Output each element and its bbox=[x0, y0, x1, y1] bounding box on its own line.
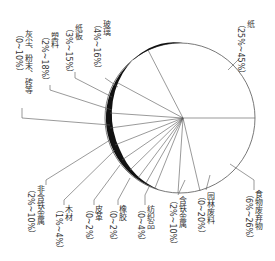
label-cardboard-name: 纸板 bbox=[73, 24, 82, 77]
label-nonferrous: 非含铁金属 （2%~10%） bbox=[26, 185, 44, 238]
label-garden-range: （0~20%） bbox=[196, 192, 205, 238]
label-glass-range: （4%~16%） bbox=[92, 20, 101, 73]
label-rubber: 橡胶 （0~2%） bbox=[108, 205, 126, 245]
label-textile: 纺织品 （0~4%） bbox=[136, 205, 154, 245]
label-textile-name: 纺织品 bbox=[145, 205, 154, 245]
label-cardboard: 纸板 （3%~15%） bbox=[64, 24, 82, 77]
label-ferrous-range: （2%~10%） bbox=[168, 196, 177, 249]
label-garden-name: 园林废料 bbox=[205, 192, 214, 238]
label-plastic-range: （2%~18%） bbox=[40, 32, 49, 85]
label-cardboard-range: （3%~15%） bbox=[64, 24, 73, 77]
label-wood-name: 木材 bbox=[63, 205, 72, 253]
label-ferrous: 含铁金属 （2%~10%） bbox=[168, 196, 186, 249]
label-leather-name: 皮革 bbox=[93, 205, 102, 245]
label-food-name: 食物废弃物 bbox=[253, 190, 262, 243]
label-nonferrous-name: 非含铁金属 bbox=[35, 185, 44, 238]
label-food: 食物废弃物 （6%~26%） bbox=[244, 190, 262, 243]
label-dust-range: （0~10%） bbox=[14, 30, 23, 94]
label-wood: 木材 （1%~4%） bbox=[54, 205, 72, 253]
label-dust: 灰尘、粉末、砖等 （0~10%） bbox=[14, 30, 32, 94]
label-textile-range: （0~4%） bbox=[136, 205, 145, 245]
label-garden: 园林废料 （0~20%） bbox=[196, 192, 214, 238]
label-paper-name: 纸 bbox=[245, 20, 254, 78]
label-ferrous-name: 含铁金属 bbox=[177, 196, 186, 249]
label-rubber-range: （0~2%） bbox=[108, 205, 117, 245]
label-food-range: （6%~26%） bbox=[244, 190, 253, 243]
label-plastic-name: 塑料 bbox=[49, 32, 58, 85]
label-leather: 皮革 （0~2%） bbox=[84, 205, 102, 245]
label-plastic: 塑料 （2%~18%） bbox=[40, 32, 58, 85]
label-paper: 纸 （25%~45%） bbox=[236, 20, 254, 78]
label-paper-range: （25%~45%） bbox=[236, 20, 245, 78]
label-glass-name: 玻璃 bbox=[101, 20, 110, 73]
label-leather-range: （0~2%） bbox=[84, 205, 93, 245]
label-nonferrous-range: （2%~10%） bbox=[26, 185, 35, 238]
label-glass: 玻璃 （4%~16%） bbox=[92, 20, 110, 73]
label-wood-range: （1%~4%） bbox=[54, 205, 63, 253]
label-rubber-name: 橡胶 bbox=[117, 205, 126, 245]
label-dust-name: 灰尘、粉末、砖等 bbox=[23, 30, 32, 94]
